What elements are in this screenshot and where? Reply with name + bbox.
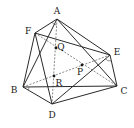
label-D: D xyxy=(48,110,55,120)
edge-AC xyxy=(57,19,117,86)
edge-DC xyxy=(52,86,117,104)
label-P: P xyxy=(77,67,83,77)
point-P xyxy=(81,64,84,67)
visible-edges xyxy=(23,19,117,104)
edge-FD xyxy=(35,33,52,104)
edge-AD-dashed xyxy=(52,19,57,104)
label-A: A xyxy=(53,6,61,16)
edge-FB xyxy=(23,33,35,87)
label-C: C xyxy=(121,86,128,96)
octahedron-diagram: AFEBCDQPR xyxy=(0,0,134,128)
label-B: B xyxy=(11,85,18,95)
edge-AE xyxy=(57,19,110,55)
edge-BC xyxy=(23,86,117,87)
label-E: E xyxy=(114,47,121,57)
label-F: F xyxy=(25,26,31,36)
point-R xyxy=(53,75,56,78)
edge-BD xyxy=(23,87,52,104)
label-Q: Q xyxy=(57,42,64,52)
label-R: R xyxy=(56,78,63,88)
